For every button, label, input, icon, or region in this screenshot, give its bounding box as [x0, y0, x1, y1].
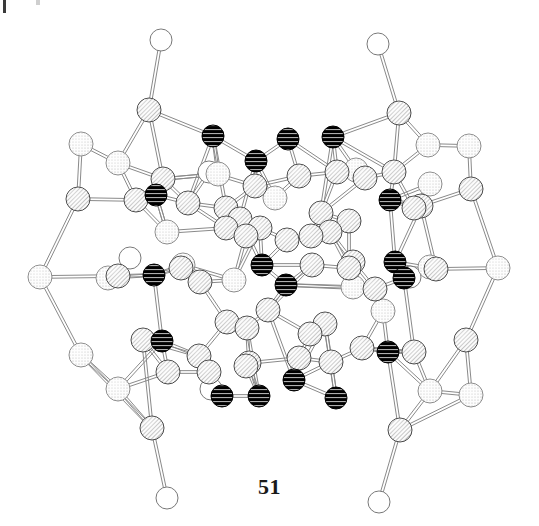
- black-atom: [145, 184, 167, 206]
- black-atom: [143, 264, 165, 286]
- figure-number-caption: 51: [0, 474, 539, 500]
- atom-layer: [28, 29, 510, 513]
- hatched-atom: [387, 101, 411, 125]
- hatched-atom: [287, 346, 311, 370]
- hatched-atom: [66, 187, 90, 211]
- stippled-atom: [371, 299, 395, 323]
- hatched-atom: [124, 188, 148, 212]
- hatched-atom: [382, 160, 406, 184]
- black-atom: [277, 128, 299, 150]
- black-atom: [245, 150, 267, 172]
- hatched-atom: [137, 98, 161, 122]
- hatched-atom: [299, 224, 323, 248]
- hatched-atom: [106, 264, 130, 288]
- hatched-atom: [298, 322, 322, 346]
- stippled-atom: [106, 377, 130, 401]
- hatched-atom: [454, 328, 478, 352]
- stippled-atom: [222, 268, 246, 292]
- stippled-atom: [457, 134, 481, 158]
- black-atom: [393, 267, 415, 289]
- hatched-atom: [325, 160, 349, 184]
- hatched-atom: [350, 336, 374, 360]
- hatched-atom: [256, 298, 280, 322]
- black-atom: [283, 369, 305, 391]
- stippled-atom: [418, 172, 442, 196]
- black-atom: [251, 254, 273, 276]
- hatched-atom: [234, 354, 258, 378]
- stippled-atom: [486, 256, 510, 280]
- hatched-atom: [353, 166, 377, 190]
- hatched-atom: [176, 191, 200, 215]
- stippled-atom: [106, 151, 130, 175]
- hatched-atom: [156, 360, 180, 384]
- black-atom: [202, 125, 224, 147]
- black-atom: [322, 126, 344, 148]
- stippled-atom: [418, 379, 442, 403]
- molecular-structure-diagram: [0, 0, 539, 526]
- black-atom: [248, 385, 270, 407]
- figure-page: 51: [0, 0, 539, 526]
- hatched-atom: [197, 360, 221, 384]
- black-atom: [377, 341, 399, 363]
- stippled-atom: [69, 132, 93, 156]
- hatched-atom: [459, 177, 483, 201]
- black-atom: [151, 330, 173, 352]
- hatched-atom: [363, 277, 387, 301]
- stippled-atom: [69, 343, 93, 367]
- stippled-atom: [155, 220, 179, 244]
- hatched-atom: [188, 270, 212, 294]
- stippled-atom: [206, 162, 230, 186]
- black-atom: [379, 189, 401, 211]
- hatched-atom: [234, 224, 258, 248]
- hatched-atom: [402, 340, 426, 364]
- hatched-atom: [337, 256, 361, 280]
- hatched-atom: [424, 257, 448, 281]
- hatched-atom: [275, 228, 299, 252]
- hatched-atom: [235, 316, 259, 340]
- open-atom: [150, 29, 172, 51]
- hatched-atom: [319, 350, 343, 374]
- black-atom: [275, 274, 297, 296]
- stippled-atom: [28, 265, 52, 289]
- stippled-atom: [416, 133, 440, 157]
- hatched-atom: [243, 174, 267, 198]
- hatched-atom: [300, 253, 324, 277]
- stippled-atom: [459, 383, 483, 407]
- hatched-atom: [402, 196, 426, 220]
- black-atom: [325, 387, 347, 409]
- hatched-atom: [140, 416, 164, 440]
- hatched-atom: [388, 418, 412, 442]
- hatched-atom: [287, 164, 311, 188]
- open-atom: [367, 33, 389, 55]
- black-atom: [211, 385, 233, 407]
